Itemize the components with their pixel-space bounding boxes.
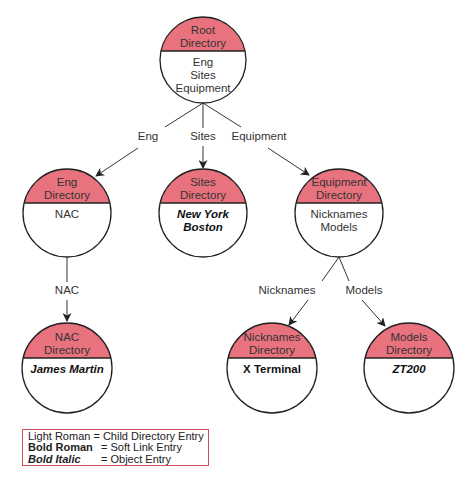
directory-title: Directory	[386, 344, 432, 356]
legend-row: Bold Roman= Soft Link Entry	[28, 442, 203, 453]
legend-separator: =	[101, 454, 110, 465]
directory-entry: NAC	[55, 208, 79, 220]
directory-title: Equipment	[312, 176, 368, 188]
directory-title: Directory	[180, 189, 226, 201]
arrow-icon	[362, 300, 385, 326]
directory-title: Sites	[190, 176, 216, 188]
directory-entry: Models	[320, 221, 357, 233]
node-models-directory: ModelsDirectoryZT200	[362, 321, 456, 413]
node-root-directory: RootDirectoryEngSitesEquipment	[158, 15, 248, 103]
edge-label: Equipment	[232, 130, 288, 142]
directory-entry: Sites	[190, 69, 216, 81]
edge-label: Eng	[138, 130, 158, 142]
directory-entry: James Martin	[30, 363, 104, 375]
directory-title: Models	[390, 331, 427, 343]
legend-separator: =	[101, 442, 110, 453]
legend-description: Object Entry	[110, 454, 171, 465]
directory-title: Directory	[44, 189, 90, 201]
directory-title: NAC	[55, 331, 79, 343]
edge-nac: NAC	[55, 257, 79, 321]
edge-label: Nicknames	[259, 284, 316, 296]
edge-models: Models	[339, 257, 385, 326]
edge-line-upper	[339, 257, 349, 281]
edge-label: Sites	[190, 130, 216, 142]
legend-row: Bold Italic= Object Entry	[28, 454, 203, 465]
node-equipment-directory: EquipmentDirectoryNicknamesModels	[293, 167, 385, 257]
directory-title: Directory	[316, 189, 362, 201]
legend-box: Light Roman = Child Directory EntryBold …	[22, 429, 209, 466]
legend-key: Bold Roman	[28, 442, 101, 453]
directory-title: Directory	[44, 344, 90, 356]
edge-eng: Eng	[96, 103, 203, 176]
edge-label: NAC	[55, 284, 79, 296]
directory-entry: Eng	[193, 56, 213, 68]
directory-entry: ZT200	[391, 363, 426, 375]
directory-title: Eng	[57, 176, 77, 188]
directory-title: Nicknames	[244, 331, 301, 343]
directory-entry: Boston	[183, 221, 223, 233]
directory-entry: X Terminal	[243, 363, 301, 375]
directory-entry: New York	[177, 208, 229, 220]
directory-entry: Nicknames	[311, 208, 368, 220]
arrow-icon	[268, 148, 309, 175]
legend-description: Soft Link Entry	[110, 442, 182, 453]
edge-line-upper	[322, 257, 339, 281]
directory-tree-diagram: EngSitesEquipmentNACNicknamesModels Root…	[0, 0, 476, 489]
node-nac-directory: NACDirectoryJames Martin	[20, 321, 114, 413]
arrow-icon	[96, 148, 138, 176]
edge-line-upper	[165, 103, 203, 127]
edge-line-upper	[203, 103, 241, 127]
edge-sites: Sites	[190, 103, 216, 168]
nodes-layer: RootDirectoryEngSitesEquipmentEngDirecto…	[20, 15, 456, 413]
node-sites-directory: SitesDirectoryNew YorkBoston	[157, 167, 249, 257]
arrow-icon	[289, 300, 308, 325]
legend-key: Bold Italic	[28, 454, 101, 465]
node-nicknames-directory: NicknamesDirectoryX Terminal	[225, 321, 319, 413]
directory-title: Root	[191, 24, 216, 36]
edge-label: Models	[345, 284, 382, 296]
edge-equipment: Equipment	[203, 103, 309, 175]
edge-nicknames: Nicknames	[259, 257, 339, 325]
directory-title: Directory	[180, 37, 226, 49]
node-eng-directory: EngDirectoryNAC	[21, 167, 113, 257]
directory-title: Directory	[249, 344, 295, 356]
directory-entry: Equipment	[176, 82, 232, 94]
